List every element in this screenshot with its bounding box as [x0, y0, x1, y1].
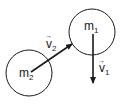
- mass-2: m2: [6, 50, 52, 96]
- mass-1-label: m1: [84, 19, 99, 35]
- velocity-1: → v1: [93, 34, 110, 83]
- mass-1: m1: [69, 9, 115, 55]
- velocity-1-label: v1: [99, 61, 110, 77]
- mass-2-label: m2: [19, 66, 34, 82]
- collision-diagram: m1 m2 → v2 → v1: [0, 0, 122, 106]
- velocity-2-label: v2: [46, 37, 57, 53]
